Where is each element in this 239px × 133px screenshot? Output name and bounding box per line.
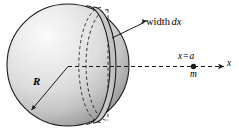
equals-symbol: = <box>182 51 189 61</box>
x-equals-a-label: x=a <box>178 52 194 62</box>
a-symbol: a <box>190 51 195 61</box>
x-axis-label: x <box>227 59 231 69</box>
dx-symbol: dx <box>170 16 181 27</box>
sphere-slice-diagram: widthdx R x=a m x <box>0 0 239 133</box>
width-word: width <box>146 16 170 27</box>
diagram-canvas <box>0 0 239 133</box>
width-dx-label: widthdx <box>146 17 181 28</box>
mass-label: m <box>190 70 197 80</box>
radius-label: R <box>33 76 40 87</box>
